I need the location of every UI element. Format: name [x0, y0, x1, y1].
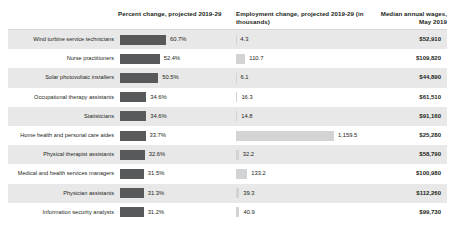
- occupation-label: Information security analysts: [10, 203, 118, 222]
- employment-change-cell: 39.3: [236, 184, 368, 203]
- occupation-label: Nurse practitioners: [10, 49, 118, 68]
- employment-change-bar: [236, 169, 247, 179]
- employment-change-value: 32.2: [243, 145, 254, 164]
- percent-change-value: 31.2%: [148, 203, 164, 222]
- employment-change-value: 133.2: [251, 164, 266, 183]
- table-row: Solar photovoltaic installers50.5%6.1$44…: [8, 68, 447, 87]
- employment-change-cell: 16.3: [236, 88, 368, 107]
- occupation-label: Occupational therapy assistants: [10, 88, 118, 107]
- table-row: Home health and personal care aides33.7%…: [8, 126, 447, 145]
- employment-change-bar: [236, 73, 237, 83]
- table-body: Wind turbine service technicians60.7%4.3…: [8, 30, 447, 222]
- employment-change-cell: 4.3: [236, 30, 368, 49]
- median-wage-value: $109,820: [416, 49, 441, 68]
- table-row: Physical therapist assistants32.6%32.2$5…: [8, 145, 447, 164]
- occupation-label: Wind turbine service technicians: [10, 30, 118, 49]
- median-wage-value: $61,510: [419, 88, 441, 107]
- percent-change-cell: 31.3%: [120, 184, 234, 203]
- percent-change-value: 31.3%: [148, 184, 164, 203]
- occupation-label: Medical and health services managers: [10, 164, 118, 183]
- median-wage-value: $100,980: [416, 164, 441, 183]
- employment-change-value: 40.9: [243, 203, 254, 222]
- percent-change-cell: 33.7%: [120, 126, 234, 145]
- header-percent-change: Percent change, projected 2019-29: [118, 10, 238, 18]
- percent-change-cell: 34.6%: [120, 88, 234, 107]
- percent-change-bar: [120, 54, 160, 64]
- median-wage-value: $99,730: [419, 203, 441, 222]
- header-median-wages: Median annual wages, May 2019: [368, 10, 447, 26]
- percent-change-bar: [120, 169, 144, 179]
- percent-change-cell: 52.4%: [120, 49, 234, 68]
- employment-change-value: 39.3: [243, 184, 254, 203]
- percent-change-bar: [120, 73, 158, 83]
- percent-change-cell: 31.5%: [120, 164, 234, 183]
- percent-change-bar: [120, 131, 146, 141]
- employment-change-bar: [236, 92, 237, 102]
- occupation-label: Home health and personal care aides: [10, 126, 118, 145]
- employment-change-cell: 110.7: [236, 49, 368, 68]
- percent-change-value: 60.7%: [170, 30, 186, 49]
- employment-change-cell: 14.8: [236, 107, 368, 126]
- employment-change-value: 14.8: [241, 107, 252, 126]
- occupation-label: Physician assistants: [10, 184, 118, 203]
- percent-change-bar: [120, 207, 144, 217]
- employment-change-value: 1,159.5: [338, 126, 357, 145]
- employment-change-bar: [236, 131, 334, 141]
- table-row: Physician assistants31.3%39.3$112,260: [8, 184, 447, 203]
- percent-change-cell: 31.2%: [120, 203, 234, 222]
- percent-change-value: 32.6%: [149, 145, 165, 164]
- percent-change-bar: [120, 35, 166, 45]
- employment-change-bar: [236, 111, 237, 121]
- occupation-label: Physical therapist assistants: [10, 145, 118, 164]
- percent-change-value: 52.4%: [164, 49, 180, 68]
- table-row: Wind turbine service technicians60.7%4.3…: [8, 30, 447, 49]
- table-row: Occupational therapy assistants34.6%16.3…: [8, 88, 447, 107]
- median-wage-value: $44,890: [419, 68, 441, 87]
- table-row: Nurse practitioners52.4%110.7$109,820: [8, 49, 447, 68]
- median-wage-value: $112,260: [416, 184, 441, 203]
- table-header: Percent change, projected 2019-29 Employ…: [8, 8, 447, 30]
- percent-change-bar: [120, 92, 146, 102]
- table-row: Statisticians34.6%14.8$91,160: [8, 107, 447, 126]
- employment-change-cell: 40.9: [236, 203, 368, 222]
- employment-change-value: 6.1: [241, 68, 249, 87]
- median-wage-value: $52,910: [419, 30, 441, 49]
- percent-change-cell: 32.6%: [120, 145, 234, 164]
- percent-change-cell: 34.6%: [120, 107, 234, 126]
- percent-change-value: 34.6%: [150, 88, 166, 107]
- occupation-label: Solar photovoltaic installers: [10, 68, 118, 87]
- employment-change-cell: 133.2: [236, 164, 368, 183]
- percent-change-value: 50.5%: [162, 68, 178, 87]
- percent-change-cell: 50.5%: [120, 68, 234, 87]
- employment-change-value: 4.3: [240, 30, 248, 49]
- employment-change-cell: 1,159.5: [236, 126, 368, 145]
- employment-change-cell: 6.1: [236, 68, 368, 87]
- percent-change-value: 31.5%: [148, 164, 164, 183]
- percent-change-bar: [120, 111, 146, 121]
- percent-change-bar: [120, 150, 145, 160]
- employment-change-value: 110.7: [249, 49, 263, 68]
- percent-change-value: 33.7%: [150, 126, 166, 145]
- employment-change-bar: [236, 188, 239, 198]
- employment-change-value: 16.3: [241, 88, 252, 107]
- percent-change-bar: [120, 188, 144, 198]
- projections-table-chart: Percent change, projected 2019-29 Employ…: [0, 0, 454, 228]
- employment-change-bar: [236, 54, 245, 64]
- median-wage-value: $58,790: [419, 145, 441, 164]
- median-wage-value: $91,160: [419, 107, 441, 126]
- table-row: Information security analysts31.2%40.9$9…: [8, 203, 447, 222]
- employment-change-bar: [236, 150, 239, 160]
- employment-change-cell: 32.2: [236, 145, 368, 164]
- occupation-label: Statisticians: [10, 107, 118, 126]
- percent-change-value: 34.6%: [150, 107, 166, 126]
- percent-change-cell: 60.7%: [120, 30, 234, 49]
- employment-change-bar: [236, 207, 239, 217]
- median-wage-value: $25,280: [419, 126, 441, 145]
- header-employment-change: Employment change, projected 2019-29 (in…: [236, 10, 386, 26]
- table-row: Medical and health services managers31.5…: [8, 164, 447, 183]
